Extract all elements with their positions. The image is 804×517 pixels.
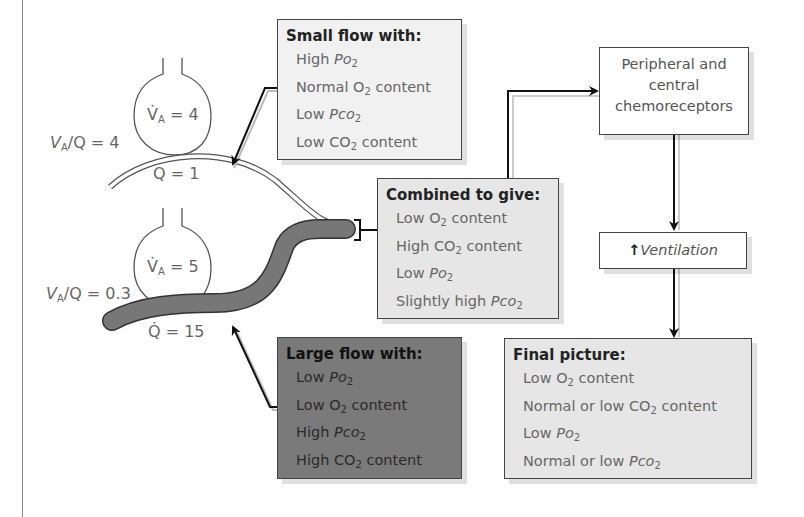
arrow-chemoreceptors-to-ventilation xyxy=(674,135,679,230)
ventilation-box: ↑Ventilation xyxy=(599,232,747,269)
combined-line: Slightly high Pco2 xyxy=(386,290,550,318)
ratio-bottom-label: VA/Q = 0.3 xyxy=(46,284,131,304)
large-flow-title: Large flow with: xyxy=(286,345,453,363)
small-flow-title: Small flow with: xyxy=(286,27,453,45)
combined-box: Combined to give: Low O2 content High CO… xyxy=(377,178,559,319)
chemoreceptors-line: Peripheral and xyxy=(604,54,744,75)
final-picture-box: Final picture: Low O2 content Normal or … xyxy=(504,338,752,479)
final-title: Final picture: xyxy=(513,346,743,364)
large-flow-box: Large flow with: Low Po2 Low O2 content … xyxy=(277,337,462,479)
increase-arrow-icon: ↑ xyxy=(628,242,640,258)
ventilation-label: Ventilation xyxy=(640,242,718,258)
small-flow-line: Low Pco2 xyxy=(286,103,453,131)
merge-bracket xyxy=(354,220,377,240)
chemoreceptors-box: Peripheral and central chemoreceptors xyxy=(599,47,749,135)
ventilation-top-label: V̇A = 4 xyxy=(147,105,199,125)
ratio-top-label: VA/Q = 4 xyxy=(50,133,120,153)
arrow-large-flow-to-capillary xyxy=(233,327,281,410)
large-flow-line: Low O2 content xyxy=(286,394,453,422)
capillary-top xyxy=(110,156,350,225)
ventilation-bottom-label: V̇A = 5 xyxy=(147,257,199,277)
flow-top-label: Q = 1 xyxy=(153,164,199,183)
small-flow-box: Small flow with: High Po2 Normal O2 cont… xyxy=(277,19,462,160)
chemoreceptors-line: central xyxy=(604,75,744,96)
final-line: Low O2 content xyxy=(513,367,743,395)
large-flow-line: High CO2 content xyxy=(286,449,453,477)
final-line: Normal or low Pco2 xyxy=(513,450,743,478)
small-flow-line: Normal O2 content xyxy=(286,76,453,104)
arrow-combined-to-chemoreceptors xyxy=(508,91,600,184)
combined-title: Combined to give: xyxy=(386,186,550,204)
arrow-ventilation-to-final xyxy=(674,269,679,337)
combined-line: High CO2 content xyxy=(386,235,550,263)
final-line: Low Po2 xyxy=(513,422,743,450)
large-flow-line: Low Po2 xyxy=(286,366,453,394)
small-flow-line: Low CO2 content xyxy=(286,131,453,159)
arrow-small-flow-to-capillary xyxy=(233,88,280,168)
large-flow-line: High Pco2 xyxy=(286,421,453,449)
combined-line: Low O2 content xyxy=(386,207,550,235)
combined-line: Low Po2 xyxy=(386,262,550,290)
chemoreceptors-line: chemoreceptors xyxy=(604,96,744,117)
small-flow-line: High Po2 xyxy=(286,48,453,76)
flow-bottom-label: Q̇ = 15 xyxy=(148,322,205,341)
final-line: Normal or low CO2 content xyxy=(513,395,743,423)
